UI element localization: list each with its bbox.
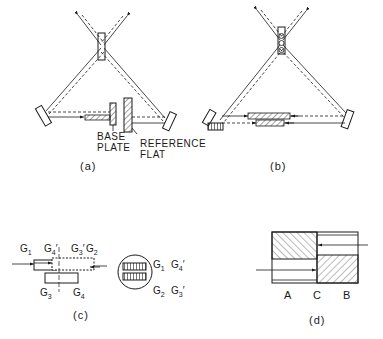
reference-flat-label: REFERENCE FLAT [140,138,206,160]
panel-a-interferometer [35,15,176,134]
label-g3: G3 [40,287,52,300]
label-b: B [343,290,351,301]
label-a: A [284,290,292,301]
right-mirror [162,112,176,131]
caption-a: (a) [80,160,96,172]
diagram-canvas [0,0,383,339]
label-g3-prime: G3′ [71,243,85,256]
gauge-g4-prime-g3-prime [52,258,94,270]
caption-d: (d) [309,314,325,326]
fov-label-g2: G2 [153,285,165,298]
base-plate-label: BASE PLATE [97,131,130,153]
sample [85,115,110,120]
fov-label-g1: G1 [153,259,165,272]
block-b-hatched [317,255,358,283]
label-g1: G1 [20,243,32,256]
reference-flat [124,98,132,132]
left-mirror [35,105,51,126]
label-g4-prime: G4′ [44,243,58,256]
panel-b-interferometer [202,10,353,130]
base-plate-label-line2: PLATE [97,142,130,153]
panel-d-block-diagram [256,232,368,283]
right-mirror [341,110,354,129]
reference-flat-label-line1: REFERENCE [140,138,206,149]
block-a-hatched [272,232,317,259]
label-c: C [313,290,321,301]
base-plate-label-line1: BASE [97,131,130,142]
sample-upper [248,113,290,119]
caption-b: (b) [270,160,286,172]
left-prism [208,123,223,130]
label-g2: G2 [86,243,98,256]
base-plate [110,103,116,125]
gauge-g3-g4 [45,273,78,283]
sample-lower [256,120,284,126]
panel-c-field-of-view [118,255,152,289]
fov-label-g4-prime: G4′ [171,259,185,272]
fov-label-g3-prime: G3′ [171,285,185,298]
label-g4: G4 [73,287,85,300]
caption-c: (c) [73,309,89,321]
reference-flat-label-line2: FLAT [140,149,206,160]
